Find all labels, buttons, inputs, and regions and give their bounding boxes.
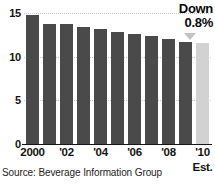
bar-chart-figure: 051015 2000'02'04'06'08'10Est. Down 0.8%… [0,0,214,186]
bar [128,34,141,144]
bar [196,43,209,144]
y-axis-tick-label: 10 [1,52,21,63]
annotation-value: 0.8% [157,16,213,30]
y-axis-tick-label: 15 [1,8,21,19]
bar [77,27,90,144]
y-axis-tick-label: 5 [1,95,21,106]
bar [26,15,39,144]
estimate-label: Est. [181,161,215,173]
bar [162,39,175,144]
annotation-direction: Down [157,2,213,16]
x-axis: 2000'02'04'06'08'10Est. [0,146,214,164]
bar [111,32,124,144]
bar [60,24,73,144]
change-annotation: Down 0.8% [157,2,213,30]
bar [43,24,56,144]
bar [179,42,192,144]
bar [145,36,158,144]
x-axis-tick-label: '10 [181,146,215,158]
bar [94,29,107,144]
source-note: Source: Beverage Information Group [2,167,162,178]
down-triangle-icon [184,33,196,40]
